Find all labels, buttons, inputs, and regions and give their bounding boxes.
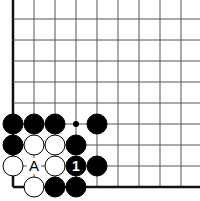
move-number-label: 1 xyxy=(72,158,80,174)
white-stone xyxy=(24,135,44,155)
point-marker-dot xyxy=(73,121,79,127)
black-stone xyxy=(45,114,65,134)
black-stone xyxy=(3,114,23,134)
black-stone xyxy=(87,114,107,134)
black-stone xyxy=(66,177,86,197)
white-stone xyxy=(45,135,65,155)
point-label-a: A xyxy=(29,157,39,174)
black-stone xyxy=(87,156,107,176)
white-stone xyxy=(45,156,65,176)
white-stone xyxy=(24,177,44,197)
black-stone xyxy=(45,177,65,197)
black-stone xyxy=(3,135,23,155)
go-board-diagram: 1A xyxy=(0,0,200,201)
white-stone xyxy=(3,156,23,176)
black-stone xyxy=(66,135,86,155)
black-stone xyxy=(24,114,44,134)
